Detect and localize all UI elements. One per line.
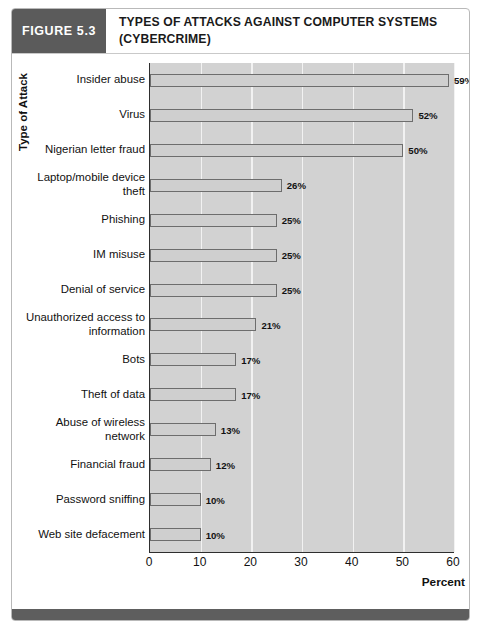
- bar: [150, 423, 216, 436]
- bar-value-label: 21%: [261, 319, 280, 330]
- bar-value-label: 12%: [216, 459, 235, 470]
- figure-title-container: TYPES OF ATTACKS AGAINST COMPUTER SYSTEM…: [106, 9, 469, 53]
- bar: [150, 144, 403, 157]
- bar-row: 13%: [150, 423, 454, 436]
- bar-value-label: 26%: [287, 180, 306, 191]
- bar-row: 52%: [150, 109, 454, 122]
- bar-value-label: 17%: [241, 389, 260, 400]
- category-label: Abuse of wirelessnetwork: [15, 416, 145, 444]
- x-axis-tick-label: 0: [146, 555, 153, 569]
- gridline: [454, 63, 455, 552]
- figure-header: FIGURE 5.3 TYPES OF ATTACKS AGAINST COMP…: [12, 9, 469, 54]
- bar-row: 25%: [150, 249, 454, 262]
- bar: [150, 528, 201, 541]
- bar: [150, 458, 211, 471]
- bar-value-label: 25%: [282, 250, 301, 261]
- x-axis-title: Percent: [422, 575, 465, 589]
- bar-row: 21%: [150, 318, 454, 331]
- bar-value-label: 10%: [206, 494, 225, 505]
- bar: [150, 249, 277, 262]
- bar-value-label: 50%: [408, 145, 427, 156]
- category-label: Theft of data: [15, 388, 145, 402]
- figure-footer-bar: [12, 609, 469, 620]
- category-label: Financial fraud: [15, 458, 145, 472]
- bar-value-label: 13%: [221, 424, 240, 435]
- plot-area: 59%52%50%26%25%25%25%21%17%17%13%12%10%1…: [149, 63, 454, 553]
- bar: [150, 353, 236, 366]
- bar: [150, 284, 277, 297]
- category-label: Unauthorized access toinformation: [15, 311, 145, 339]
- bar-row: 10%: [150, 528, 454, 541]
- x-axis-tick-layer: 0102030405060: [149, 555, 453, 573]
- gridline: [403, 63, 404, 552]
- category-label: IM misuse: [15, 248, 145, 262]
- category-label-layer: Insider abuseVirusNigerian letter fraudL…: [12, 63, 145, 552]
- x-axis-tick-label: 10: [193, 555, 206, 569]
- bar-value-label: 59%: [454, 75, 469, 86]
- bar-row: 25%: [150, 284, 454, 297]
- bar-value-label: 17%: [241, 354, 260, 365]
- figure-number-label: FIGURE 5.3: [22, 24, 96, 38]
- figure-number-badge: FIGURE 5.3: [12, 9, 106, 53]
- figure-title: TYPES OF ATTACKS AGAINST COMPUTER SYSTEM…: [119, 14, 461, 49]
- bar-row: 17%: [150, 388, 454, 401]
- bar-row: 17%: [150, 353, 454, 366]
- bar: [150, 74, 449, 87]
- bar: [150, 493, 201, 506]
- category-label: Bots: [15, 353, 145, 367]
- bar: [150, 214, 277, 227]
- bar: [150, 318, 256, 331]
- x-axis-tick-label: 30: [294, 555, 307, 569]
- gridline: [201, 63, 202, 552]
- gridline: [353, 63, 354, 552]
- bar-row: 50%: [150, 144, 454, 157]
- x-axis-tick-label: 20: [244, 555, 257, 569]
- bar-value-label: 52%: [418, 110, 437, 121]
- bar-row: 59%: [150, 74, 454, 87]
- bar-value-label: 25%: [282, 285, 301, 296]
- x-axis-tick-label: 50: [396, 555, 409, 569]
- category-label: Nigerian letter fraud: [15, 143, 145, 157]
- category-label: Password sniffing: [15, 493, 145, 507]
- category-label: Denial of service: [15, 283, 145, 297]
- category-label: Laptop/mobile devicetheft: [15, 171, 145, 199]
- category-label: Phishing: [15, 213, 145, 227]
- bar-row: 12%: [150, 458, 454, 471]
- bar-value-label: 25%: [282, 215, 301, 226]
- bar-row: 10%: [150, 493, 454, 506]
- bar-row: 25%: [150, 214, 454, 227]
- x-axis-tick-label: 60: [446, 555, 459, 569]
- category-label: Web site defacement: [15, 528, 145, 542]
- figure-frame: FIGURE 5.3 TYPES OF ATTACKS AGAINST COMP…: [11, 8, 470, 621]
- x-axis-tick-label: 40: [345, 555, 358, 569]
- gridline: [302, 63, 303, 552]
- bar: [150, 388, 236, 401]
- category-label: Virus: [15, 108, 145, 122]
- bar-row: 26%: [150, 179, 454, 192]
- bar: [150, 179, 282, 192]
- gridline: [251, 63, 252, 552]
- bar: [150, 109, 413, 122]
- category-label: Insider abuse: [15, 73, 145, 87]
- chart-region: Type of Attack Insider abuseVirusNigeria…: [12, 54, 469, 599]
- bar-value-label: 10%: [206, 529, 225, 540]
